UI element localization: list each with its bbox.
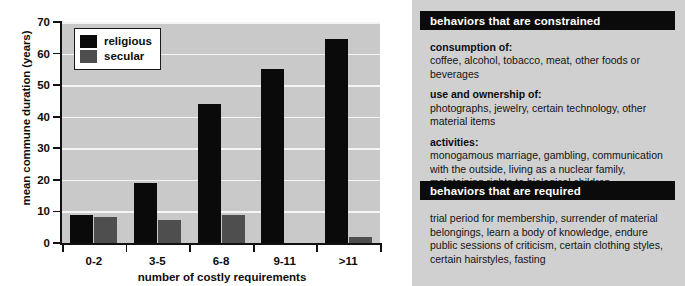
- x-tick-3: [253, 244, 255, 252]
- y-tick-label-50: 50: [4, 79, 50, 91]
- legend-label-religious: religious: [104, 36, 152, 48]
- x-tick-4: [316, 244, 318, 252]
- bar-secular-3-5: [158, 220, 181, 243]
- y-tick-label-60: 60: [4, 48, 50, 60]
- bar-religious->11: [325, 39, 348, 243]
- legend-swatch-religious: [80, 35, 97, 48]
- constrained-content: consumption of: coffee, alcohol, tobacco…: [430, 41, 678, 196]
- bar-chart: mean commune duration (years) 0102030405…: [0, 0, 404, 286]
- y-tick-label-40: 40: [4, 111, 50, 123]
- y-axis-tick-labels: 010203040506070: [0, 0, 50, 286]
- legend-label-secular: secular: [104, 51, 144, 63]
- x-tick-5: [380, 244, 382, 252]
- required-header-text: behaviors that are required: [430, 185, 581, 197]
- x-tick-label-3-5: 3-5: [127, 255, 187, 267]
- x-tick-label-6-8: 6-8: [191, 255, 251, 267]
- bar-religious-3-5: [134, 183, 157, 243]
- bar-religious-6-8: [198, 104, 221, 243]
- constrained-group-ownership-body: photographs, jewelry, certain technology…: [430, 102, 678, 129]
- y-tick-50: [53, 84, 61, 86]
- required-header-band: behaviors that are required: [420, 181, 675, 200]
- required-content: trial period for membership, surrender o…: [430, 212, 678, 267]
- constrained-group-consumption-head: consumption of:: [430, 41, 678, 54]
- bar-religious-9-11: [261, 69, 284, 243]
- bar-religious-0-2: [70, 215, 93, 243]
- y-tick-label-30: 30: [4, 142, 50, 154]
- constrained-group-ownership-head: use and ownership of:: [430, 88, 678, 101]
- x-axis-spine: [60, 243, 382, 245]
- x-tick-0: [62, 244, 64, 252]
- bar-secular-0-2: [94, 217, 117, 243]
- required-body: trial period for membership, surrender o…: [430, 212, 678, 267]
- gridline-70: [62, 22, 380, 24]
- y-tick-70: [53, 21, 61, 23]
- chart-legend: religious secular: [74, 28, 161, 70]
- x-tick-label->11: >11: [318, 255, 378, 267]
- info-panel: behaviors that are constrained consumpti…: [412, 0, 685, 286]
- constrained-header-band: behaviors that are constrained: [420, 11, 675, 30]
- y-tick-label-10: 10: [4, 205, 50, 217]
- y-tick-label-0: 0: [4, 237, 50, 249]
- legend-item-religious: religious: [80, 35, 152, 48]
- x-tick-label-9-11: 9-11: [255, 255, 315, 267]
- constrained-group-consumption: consumption of: coffee, alcohol, tobacco…: [430, 41, 678, 81]
- y-tick-20: [53, 179, 61, 181]
- y-tick-60: [53, 53, 61, 55]
- legend-item-secular: secular: [80, 50, 152, 63]
- y-tick-30: [53, 147, 61, 149]
- y-tick-10: [53, 211, 61, 213]
- y-tick-label-70: 70: [4, 16, 50, 28]
- y-tick-label-20: 20: [4, 174, 50, 186]
- x-axis-title: number of costly requirements: [62, 271, 382, 283]
- constrained-group-ownership: use and ownership of: photographs, jewel…: [430, 88, 678, 128]
- constrained-header-text: behaviors that are constrained: [430, 15, 600, 27]
- constrained-group-consumption-body: coffee, alcohol, tobacco, meat, other fo…: [430, 54, 678, 81]
- y-tick-40: [53, 116, 61, 118]
- x-tick-1: [126, 244, 128, 252]
- x-tick-label-0-2: 0-2: [64, 255, 124, 267]
- bar-secular-6-8: [222, 215, 245, 243]
- legend-swatch-secular: [80, 50, 97, 63]
- constrained-group-activities-head: activities:: [430, 136, 678, 149]
- figure-container: mean commune duration (years) 0102030405…: [0, 0, 685, 286]
- x-tick-2: [189, 244, 191, 252]
